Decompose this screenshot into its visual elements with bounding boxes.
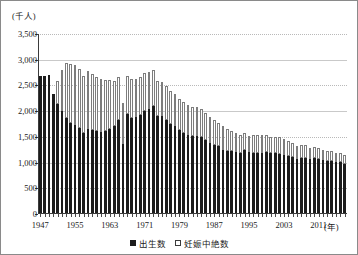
- x-tick-mark: [84, 214, 85, 217]
- x-tick-mark: [110, 214, 111, 217]
- bar-segment-abortions: [226, 129, 229, 151]
- bar-column: [317, 148, 320, 214]
- bar-segment-abortions: [283, 139, 286, 154]
- x-tick-mark: [227, 214, 228, 217]
- bar-column: [309, 148, 312, 214]
- x-tick-label: 1955: [66, 220, 83, 230]
- bar-segment-births: [243, 150, 246, 214]
- y-tick-label: 1,500: [0, 132, 37, 142]
- x-tick-mark: [101, 214, 102, 217]
- x-tick-mark: [145, 214, 146, 217]
- bar-segment-births: [82, 133, 85, 214]
- x-tick-mark: [253, 214, 254, 217]
- bar-column: [122, 103, 125, 214]
- bar-segment-abortions: [235, 133, 238, 152]
- x-tick-mark: [210, 214, 211, 217]
- bar-segment-abortions: [152, 70, 155, 106]
- bar-segment-births: [278, 154, 281, 214]
- bar-segment-births: [100, 132, 103, 214]
- x-tick-mark: [240, 214, 241, 217]
- x-tick-mark: [140, 214, 141, 217]
- bar-column: [248, 136, 251, 214]
- bar-column: [200, 109, 203, 214]
- x-tick-mark: [323, 214, 324, 217]
- bar-column: [174, 94, 177, 214]
- bar-segment-abortions: [78, 69, 81, 129]
- x-tick-mark: [271, 214, 272, 217]
- bar-column: [74, 65, 77, 214]
- bar-segment-births: [139, 115, 142, 214]
- bar-segment-births: [213, 145, 216, 214]
- bar-segment-abortions: [339, 153, 342, 162]
- bar-column: [235, 133, 238, 214]
- bar-segment-abortions: [156, 81, 159, 116]
- x-tick-mark: [332, 214, 333, 217]
- bar-segment-births: [69, 123, 72, 214]
- bar-segment-births: [309, 159, 312, 214]
- hollow-square-icon: [175, 240, 181, 246]
- bar-segment-births: [209, 143, 212, 214]
- bar-segment-abortions: [161, 82, 164, 117]
- bar-segment-abortions: [322, 150, 325, 160]
- bar-segment-abortions: [104, 80, 107, 131]
- bar-segment-births: [52, 94, 55, 214]
- legend-item-births: 出生数: [130, 237, 166, 249]
- y-tick-label: 2,500: [0, 80, 37, 90]
- bar-segment-births: [87, 129, 90, 214]
- x-tick-label: 1963: [101, 220, 118, 230]
- bar-segment-births: [126, 114, 129, 214]
- y-tick-label: 500: [0, 183, 37, 193]
- bar-segment-abortions: [204, 113, 207, 140]
- bar-segment-births: [339, 162, 342, 214]
- bar-segment-abortions: [317, 148, 320, 159]
- bar-segment-abortions: [313, 147, 316, 158]
- x-tick-mark: [40, 214, 41, 217]
- bar-segment-abortions: [148, 72, 151, 110]
- bar-segment-births: [326, 161, 329, 214]
- bar-segment-births: [108, 129, 111, 214]
- bar-column: [52, 94, 55, 214]
- bar-segment-births: [300, 158, 303, 214]
- y-axis-line: [38, 34, 39, 214]
- bar-segment-abortions: [139, 77, 142, 115]
- bar-segment-abortions: [261, 135, 264, 153]
- bar-column: [43, 76, 46, 214]
- bar-segment-abortions: [213, 120, 216, 145]
- x-tick-mark: [188, 214, 189, 217]
- bar-column: [143, 73, 146, 214]
- bar-segment-abortions: [87, 71, 90, 129]
- bar-segment-births: [169, 124, 172, 214]
- legend-label-abortions: 妊娠中絶数: [184, 237, 229, 249]
- x-tick-mark: [319, 214, 320, 217]
- bar-column: [330, 151, 333, 214]
- bar-segment-births: [104, 131, 107, 214]
- bar-segment-abortions: [100, 79, 103, 132]
- bar-segment-abortions: [91, 74, 94, 131]
- x-axis-unit-label: (年): [324, 220, 339, 232]
- x-tick-label: 1971: [136, 220, 153, 230]
- x-tick-mark: [288, 214, 289, 217]
- bar-segment-abortions: [95, 77, 98, 132]
- bar-segment-births: [95, 131, 98, 214]
- bar-segment-births: [256, 153, 259, 214]
- bar-column: [39, 76, 42, 214]
- bar-segment-abortions: [108, 80, 111, 129]
- bar-column: [252, 135, 255, 214]
- bar-column: [152, 70, 155, 214]
- x-tick-label: 1947: [32, 220, 49, 230]
- bar-column: [139, 77, 142, 214]
- x-tick-mark: [301, 214, 302, 217]
- y-tick-label: 0: [0, 209, 37, 219]
- bar-column: [187, 105, 190, 214]
- bar-segment-births: [174, 126, 177, 214]
- bar-column: [322, 150, 325, 214]
- bar-segment-abortions: [239, 135, 242, 153]
- y-tick-label: 3,000: [0, 55, 37, 65]
- bar-column: [213, 120, 216, 214]
- bar-column: [226, 129, 229, 214]
- bar-segment-abortions: [117, 77, 120, 120]
- bar-segment-abortions: [256, 135, 259, 152]
- bar-segment-births: [261, 153, 264, 214]
- bar-segment-births: [200, 137, 203, 214]
- bar-segment-abortions: [65, 63, 68, 118]
